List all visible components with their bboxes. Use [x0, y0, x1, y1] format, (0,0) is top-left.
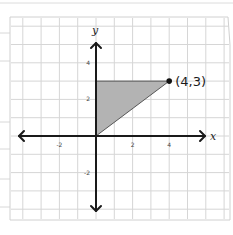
y-tick-label: -2: [84, 169, 90, 176]
point-label: (4,3): [175, 74, 206, 89]
graph-paper-figure: y x (4,3) -224 42-2: [0, 0, 233, 235]
coordinate-plane: y x (4,3) -224 42-2: [0, 0, 233, 235]
point-marker: [166, 78, 172, 84]
x-axis-label: x: [210, 130, 217, 143]
y-tick-label: 2: [86, 95, 90, 102]
x-tick-label: 4: [167, 141, 171, 148]
y-axis-label: y: [91, 24, 99, 37]
y-tick-label: 4: [86, 59, 90, 66]
x-tick-label: 2: [131, 141, 135, 148]
x-tick-label: -2: [56, 141, 62, 148]
left-margin-marks: [0, 33, 10, 207]
